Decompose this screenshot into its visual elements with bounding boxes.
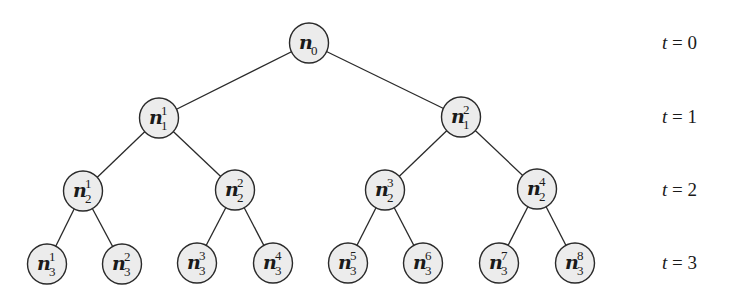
tree-edge bbox=[159, 43, 309, 118]
node-subscript: 1 bbox=[161, 118, 168, 133]
node-superscript: 3 bbox=[199, 248, 206, 263]
time-step-labels: t = 0t = 1t = 2t = 3 bbox=[662, 32, 697, 273]
node-superscript: 8 bbox=[577, 248, 584, 263]
node-superscript: 1 bbox=[85, 176, 92, 191]
time-value: = 2 bbox=[667, 179, 697, 200]
node-superscript: 1 bbox=[161, 103, 168, 118]
node-superscript: 2 bbox=[463, 102, 470, 117]
tree-node: n33 bbox=[178, 243, 217, 283]
tree-node: n42 bbox=[518, 169, 557, 209]
node-superscript: 7 bbox=[501, 248, 508, 263]
tree-node: n0 bbox=[290, 23, 329, 63]
tree-edges bbox=[47, 43, 575, 264]
tree-node: n22 bbox=[216, 170, 255, 210]
tree-node: n32 bbox=[366, 170, 405, 210]
node-superscript: 3 bbox=[387, 175, 394, 190]
tree-node: n83 bbox=[556, 243, 595, 283]
node-superscript: 5 bbox=[350, 248, 357, 263]
tree-node: n23 bbox=[103, 244, 142, 284]
node-subscript: 0 bbox=[311, 43, 318, 58]
node-subscript: 3 bbox=[49, 264, 56, 279]
node-superscript: 4 bbox=[539, 174, 546, 189]
node-subscript: 3 bbox=[350, 263, 357, 278]
node-subscript: 3 bbox=[275, 263, 282, 278]
time-step-label: t = 1 bbox=[662, 106, 697, 127]
node-subscript: 3 bbox=[124, 264, 131, 279]
time-value: = 1 bbox=[667, 106, 697, 127]
tree-node: n73 bbox=[480, 243, 519, 283]
tree-diagram: n0n11n21n12n22n32n42n13n23n33n43n53n63n7… bbox=[0, 0, 738, 297]
tree-node: n21 bbox=[442, 97, 481, 137]
node-subscript: 3 bbox=[501, 263, 508, 278]
node-subscript: 3 bbox=[577, 263, 584, 278]
time-step-label: t = 0 bbox=[662, 32, 697, 53]
time-step-label: t = 3 bbox=[662, 252, 697, 273]
node-subscript: 2 bbox=[237, 190, 244, 205]
node-subscript: 3 bbox=[425, 263, 432, 278]
tree-nodes: n0n11n21n12n22n32n42n13n23n33n43n53n63n7… bbox=[28, 23, 595, 284]
tree-edge bbox=[309, 43, 461, 117]
tree-node: n12 bbox=[64, 171, 103, 211]
node-subscript: 2 bbox=[539, 189, 546, 204]
time-value: = 0 bbox=[667, 32, 697, 53]
node-subscript: 2 bbox=[387, 190, 394, 205]
tree-node: n11 bbox=[140, 98, 179, 138]
node-subscript: 2 bbox=[85, 191, 92, 206]
node-subscript: 1 bbox=[463, 117, 470, 132]
tree-node: n53 bbox=[329, 243, 368, 283]
tree-node: n43 bbox=[254, 243, 293, 283]
time-value: = 3 bbox=[667, 252, 697, 273]
node-superscript: 2 bbox=[124, 249, 131, 264]
tree-node: n63 bbox=[404, 243, 443, 283]
node-subscript: 3 bbox=[199, 263, 206, 278]
time-step-label: t = 2 bbox=[662, 179, 697, 200]
node-superscript: 1 bbox=[49, 249, 56, 264]
node-superscript: 4 bbox=[275, 248, 282, 263]
tree-node: n13 bbox=[28, 244, 67, 284]
node-superscript: 2 bbox=[237, 175, 244, 190]
node-superscript: 6 bbox=[425, 248, 432, 263]
